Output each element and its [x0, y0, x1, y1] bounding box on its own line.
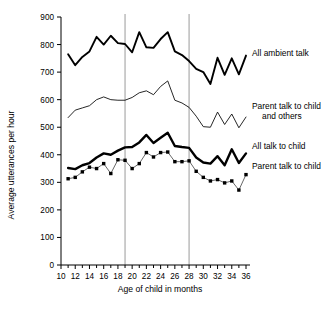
series-label-all-ambient-talk: All ambient talk — [252, 48, 310, 58]
x-tick-label-26: 26 — [170, 272, 180, 281]
y-tick-label-600: 600 — [40, 96, 54, 105]
x-axis: 1012141618202224262830323436 — [56, 265, 251, 281]
series-marker-parent-talk-to-child-21 — [138, 162, 141, 165]
series-marker-parent-talk-to-child-33 — [223, 181, 226, 184]
y-tick-label-700: 700 — [40, 68, 54, 77]
x-tick-label-32: 32 — [213, 272, 223, 281]
series-marker-parent-talk-to-child-11 — [66, 177, 69, 180]
series-path-parent-talk-to-child-and-others — [68, 81, 246, 128]
series-marker-parent-talk-to-child-25 — [166, 150, 169, 153]
series-label-parent-talk-others-line1: Parent talk to child — [252, 101, 321, 111]
series-marker-parent-talk-to-child-24 — [159, 151, 162, 154]
y-tick-label-900: 900 — [40, 13, 54, 22]
x-tick-label-12: 12 — [71, 272, 81, 281]
series-marker-parent-talk-to-child-26 — [173, 160, 176, 163]
series-marker-parent-talk-to-child-34 — [230, 179, 233, 182]
x-tick-label-22: 22 — [142, 272, 152, 281]
series-marker-parent-talk-to-child-20 — [130, 167, 133, 170]
series-marker-parent-talk-to-child-16 — [102, 162, 105, 165]
x-tick-marks — [61, 265, 246, 269]
x-tick-label-16: 16 — [99, 272, 109, 281]
series-marker-parent-talk-to-child-27 — [180, 160, 183, 163]
x-tick-label-30: 30 — [199, 272, 209, 281]
series-marker-parent-talk-to-child-15 — [95, 167, 98, 170]
series-marker-parent-talk-to-child-32 — [216, 178, 219, 181]
series-marker-parent-talk-to-child-18 — [116, 158, 119, 161]
x-tick-label-24: 24 — [156, 272, 166, 281]
y-tick-label-200: 200 — [40, 206, 54, 215]
y-axis: 0100200300400500600700800900 — [40, 13, 61, 270]
series-marker-parent-talk-to-child-17 — [109, 172, 112, 175]
x-tick-label-36: 36 — [241, 272, 251, 281]
utterances-line-chart: 0100200300400500600700800900 10121416182… — [0, 0, 336, 315]
x-tick-label-18: 18 — [113, 272, 123, 281]
series-marker-parent-talk-to-child-23 — [152, 155, 155, 158]
series-label-parent-talk-to-child: Parent talk to child — [252, 161, 321, 171]
y-tick-label-500: 500 — [40, 123, 54, 132]
series-label-parent-talk-others-line2: and others — [262, 111, 302, 121]
series-marker-parent-talk-to-child-30 — [202, 176, 205, 179]
y-tick-label-400: 400 — [40, 151, 54, 160]
series-marker-parent-talk-to-child-22 — [145, 151, 148, 154]
series-marker-parent-talk-to-child-35 — [237, 188, 240, 191]
x-tick-label-10: 10 — [56, 272, 66, 281]
series-marker-parent-talk-to-child-29 — [194, 170, 197, 173]
x-tick-label-34: 34 — [227, 272, 237, 281]
y-tick-labels: 0100200300400500600700800900 — [40, 13, 54, 270]
series-marker-parent-talk-to-child-31 — [209, 179, 212, 182]
x-tick-label-14: 14 — [85, 272, 95, 281]
y-tick-label-100: 100 — [40, 233, 54, 242]
y-tick-label-300: 300 — [40, 178, 54, 187]
data-series-group — [66, 32, 247, 192]
x-tick-label-28: 28 — [185, 272, 195, 281]
series-marker-parent-talk-to-child-36 — [244, 173, 247, 176]
x-axis-title: Age of child in months — [118, 284, 203, 294]
chart-container: 0100200300400500600700800900 10121416182… — [0, 0, 336, 315]
series-label-all-talk-to-child: All talk to child — [252, 141, 306, 151]
x-tick-labels: 1012141618202224262830323436 — [56, 272, 251, 281]
series-marker-parent-talk-to-child-14 — [88, 165, 91, 168]
series-marker-parent-talk-to-child-13 — [81, 170, 84, 173]
y-tick-label-0: 0 — [49, 261, 54, 270]
x-tick-label-20: 20 — [128, 272, 138, 281]
y-tick-marks — [57, 17, 61, 265]
series-path-all-ambient-talk — [68, 32, 246, 84]
series-marker-parent-talk-to-child-28 — [187, 159, 190, 162]
y-tick-label-800: 800 — [40, 41, 54, 50]
y-axis-title: Average utterances per hour — [6, 110, 16, 219]
series-marker-parent-talk-to-child-19 — [123, 159, 126, 162]
series-path-all-talk-to-child — [68, 133, 246, 169]
series-marker-parent-talk-to-child-12 — [74, 176, 77, 179]
